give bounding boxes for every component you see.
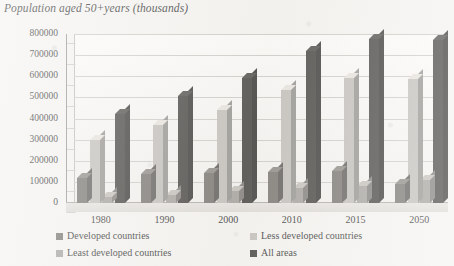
plot-floor <box>66 202 448 212</box>
bar-group <box>268 34 316 203</box>
legend-swatch-icon <box>56 250 63 257</box>
chart-legend: Developed countriesLess developed countr… <box>56 231 448 265</box>
gridline <box>74 55 448 56</box>
bar[interactable] <box>395 184 405 203</box>
gridline <box>74 97 448 98</box>
legend-swatch-icon <box>56 233 63 240</box>
bar-side <box>443 30 448 203</box>
bar-side <box>125 104 130 203</box>
bar[interactable] <box>204 173 214 203</box>
bar-group <box>77 34 125 203</box>
y-axis-line <box>66 34 67 212</box>
legend-swatch-icon <box>250 233 257 240</box>
bar[interactable] <box>141 174 151 203</box>
y-axis-tick-label: 100000 <box>0 177 58 187</box>
bar-side <box>252 68 257 203</box>
plot-area <box>66 34 448 212</box>
bar-face <box>141 174 151 203</box>
bar-face <box>395 184 405 203</box>
legend-item[interactable]: Developed countries <box>56 231 149 241</box>
y-axis-tick-label: 500000 <box>0 93 58 103</box>
bar-side <box>188 86 193 203</box>
bar-side <box>418 69 423 203</box>
legend-item[interactable]: All areas <box>250 248 297 258</box>
y-axis-tick-label: 800000 <box>0 29 58 39</box>
bar-face <box>268 172 278 203</box>
bar-face <box>77 178 87 203</box>
bar-group <box>204 34 252 203</box>
bar-side <box>100 130 105 203</box>
gridline <box>74 119 448 120</box>
x-axis-tick-label: 2000 <box>218 214 238 225</box>
y-axis-tick-label: 700000 <box>0 50 58 60</box>
x-axis-tick-label: 2015 <box>346 214 366 225</box>
gridline <box>74 182 448 183</box>
y-axis-tick-label: 600000 <box>0 72 58 82</box>
x-axis-tick-label: 2010 <box>282 214 302 225</box>
bar-side <box>379 29 384 203</box>
gridline <box>74 76 448 77</box>
bar-side <box>291 80 296 203</box>
legend-item[interactable]: Least developed countries <box>56 248 171 258</box>
bar-side <box>227 100 232 203</box>
legend-label: All areas <box>261 248 297 258</box>
bar-group <box>332 34 380 203</box>
bar[interactable] <box>268 172 278 203</box>
bar[interactable] <box>332 171 342 203</box>
x-axis-tick-label: 2050 <box>409 214 429 225</box>
bar-face <box>332 171 342 203</box>
legend-label: Least developed countries <box>67 248 171 258</box>
legend-item[interactable]: Less developed countries <box>250 231 362 241</box>
x-axis-tick-label: 1990 <box>155 214 175 225</box>
gridline <box>74 161 448 162</box>
bar-side <box>316 41 321 203</box>
legend-swatch-icon <box>250 250 257 257</box>
x-axis-labels: 198019902000201020152050 <box>66 214 448 228</box>
bar[interactable] <box>77 178 87 203</box>
y-axis-tick-label: 200000 <box>0 156 58 166</box>
gridline <box>74 140 448 141</box>
y-axis-tick-label: 300000 <box>0 135 58 145</box>
y-axis-tick-label: 0 <box>0 198 58 208</box>
bar-side <box>354 68 359 203</box>
bar-group <box>141 34 189 203</box>
bar-group <box>395 34 443 203</box>
bar-side <box>163 115 168 203</box>
legend-label: Less developed countries <box>261 231 362 241</box>
x-axis-tick-label: 1980 <box>91 214 111 225</box>
y-axis-labels: 0100000200000300000400000500000600000700… <box>0 34 62 212</box>
chart-title: Population aged 50+years (thousands) <box>4 2 188 14</box>
gridline <box>74 34 448 35</box>
y-axis-tick-label: 400000 <box>0 114 58 124</box>
legend-label: Developed countries <box>67 231 149 241</box>
bar-face <box>204 173 214 203</box>
